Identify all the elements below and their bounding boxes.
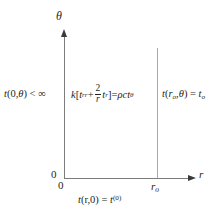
ic-superscript: (0) [113,194,121,202]
ic-args: (r,0) = [81,194,110,205]
origin-label-r: 0 [58,180,64,191]
fraction-denominator: r [95,94,101,105]
r-outer-boundary-line [157,48,158,178]
initial-condition: t(r,0) = t(0) [78,195,121,206]
eq-plus: + [88,89,94,100]
theta-axis-line [64,36,65,178]
bc-left-relation: ) < [23,88,38,99]
r-outer-subscript: o [155,185,159,194]
theta-axis-label: θ [56,10,62,22]
governing-equation: k[trr + 2rtr] = ρctθ [71,84,134,105]
bc-right-value-sub: o [201,93,205,101]
fraction-two-over-r: 2r [95,84,102,105]
bc-right-close: ) = [184,88,199,99]
up-arrow-icon [61,29,67,37]
r-axis-line [64,178,192,179]
infinity-symbol: ∞ [38,88,46,99]
eq-t-theta-sub: θ [130,91,134,99]
fraction-numerator: 2 [95,84,102,94]
origin-label-theta: 0 [51,169,57,180]
bc-left-args: (0, [7,88,18,99]
right-boundary-condition: t(ro,θ) = to [162,89,205,101]
r-axis-label: r [199,169,203,180]
left-boundary-condition: t(0,θ) < ∞ [4,89,46,100]
right-arrow-icon [188,175,196,181]
r-outer-tick-label: ro [151,181,159,194]
math-domain-diagram: θ r 0 0 ro t(0,θ) < ∞ t(ro,θ) = to k[trr… [0,0,213,213]
